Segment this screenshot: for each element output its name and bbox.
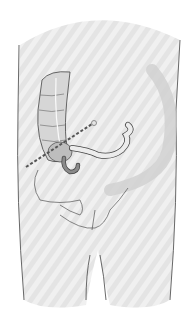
anatomy-illustration [0,0,194,318]
